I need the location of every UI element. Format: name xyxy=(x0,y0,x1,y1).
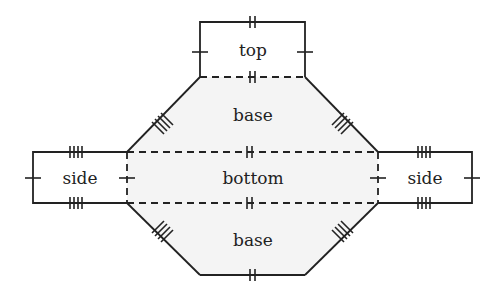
label-lower-base-face: base xyxy=(233,232,273,249)
label-upper-base-face: base xyxy=(233,107,273,124)
label-bottom-face: bottom xyxy=(222,170,283,187)
label-top-face: top xyxy=(239,42,267,59)
label-right-side-face: side xyxy=(407,170,442,187)
label-left-side-face: side xyxy=(62,170,97,187)
